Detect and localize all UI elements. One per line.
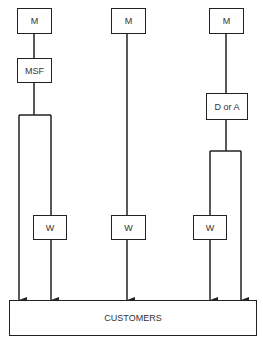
wholesaler-box-3: W [193,215,227,240]
wholesaler-label-1: W [46,223,55,233]
d-or-a-label: D or A [214,102,239,112]
wholesaler-label-3: W [206,223,215,233]
wholesaler-label-2: W [124,223,133,233]
wholesaler-box-1: W [33,215,67,240]
manufacturer-label-2: M [125,16,133,26]
customers-label: CUSTOMERS [104,313,161,323]
msf-box: MSF [17,58,52,83]
manufacturer-box-2: M [111,8,146,34]
manufacturer-box-1: M [17,8,52,34]
manufacturer-box-3: M [209,8,244,34]
customers-box: CUSTOMERS [9,300,257,336]
wholesaler-box-2: W [111,215,146,240]
connector-lines [0,0,263,342]
manufacturer-label-3: M [223,16,231,26]
manufacturer-label-1: M [31,16,39,26]
msf-label: MSF [25,66,44,76]
d-or-a-box: D or A [206,93,248,120]
